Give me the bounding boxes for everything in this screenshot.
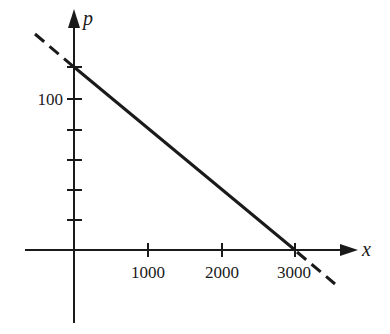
y-axis-label: p	[81, 7, 93, 30]
x-tick-label-2000: 2000	[205, 263, 239, 282]
y-axis-arrow-icon	[68, 9, 80, 28]
line-chart: p x 100 1000 2000 3000	[0, 0, 390, 334]
x-tick-label-1000: 1000	[131, 263, 165, 282]
demand-line-solid	[74, 67, 295, 250]
x-tick-label-3000: 3000	[277, 263, 311, 282]
x-axis-label: x	[361, 238, 371, 260]
y-tick-label-100: 100	[38, 90, 64, 109]
x-axis-arrow-icon	[340, 244, 358, 256]
demand-line-dashed-upper	[35, 34, 74, 67]
